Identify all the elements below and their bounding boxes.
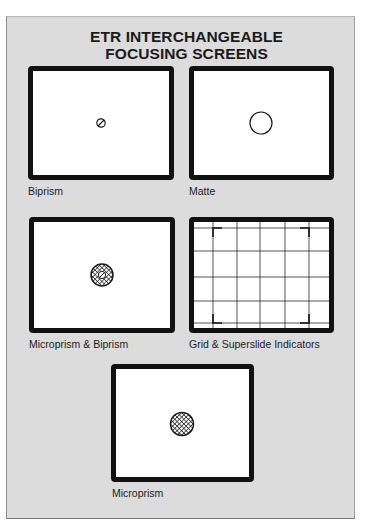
grid-with-corner-brackets-icon: [194, 222, 329, 328]
matte-circle-icon: [194, 71, 329, 175]
screen-label: Matte: [189, 185, 215, 197]
screen-matte: [189, 66, 334, 180]
screen-label: Microprism & Biprism: [29, 338, 128, 350]
microprism-biprism-hatched-circle-icon: [34, 222, 170, 328]
screen-microprism: [111, 364, 254, 482]
screen-grid-superslide: [189, 217, 334, 333]
biprism-split-circle-icon: [33, 71, 169, 175]
microprism-hatched-circle-icon: [116, 369, 249, 477]
screen-label: Grid & Superslide Indicators: [189, 338, 320, 350]
title-line-1: ETR INTERCHANGEABLE: [0, 28, 373, 45]
screen-label: Microprism: [112, 487, 163, 499]
screen-label: Biprism: [28, 185, 63, 197]
screen-biprism: [28, 66, 174, 180]
title-line-2: FOCUSING SCREENS: [0, 45, 373, 62]
screen-microprism-biprism: [29, 217, 175, 333]
